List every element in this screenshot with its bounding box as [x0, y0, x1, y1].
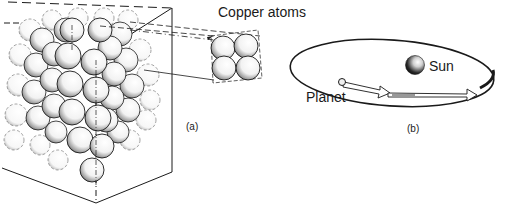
- sun-label: Sun: [429, 58, 454, 74]
- copper-atoms-label: Copper atoms: [218, 4, 306, 20]
- planet-icon: [339, 79, 346, 86]
- copper-unit-cell: [211, 30, 262, 83]
- panel-a-caption: (a): [186, 121, 198, 132]
- panel-b-caption: (b): [407, 123, 419, 134]
- direction-arrow-2: [388, 89, 477, 101]
- direction-arrow-1: [343, 82, 390, 98]
- diagram-figure: Copper atoms (a) Sun Planet (b): [0, 0, 511, 208]
- planet-label: Planet: [306, 89, 346, 105]
- sun-icon: [406, 56, 425, 75]
- diagram-canvas: [0, 0, 511, 208]
